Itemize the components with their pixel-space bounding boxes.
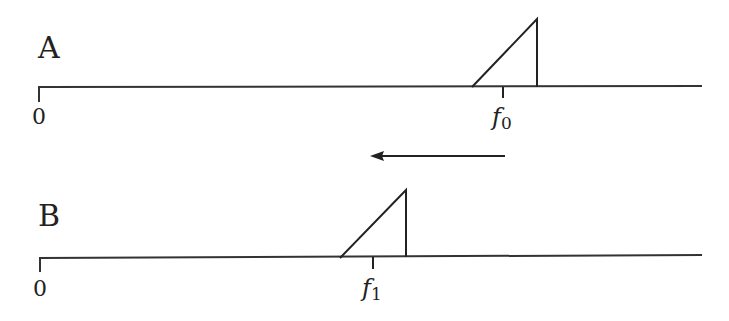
panel-b-f1-label: f1 bbox=[360, 274, 382, 304]
diagram-svg: A 0 f0 B 0 f1 bbox=[0, 0, 729, 321]
f1-subscript: 1 bbox=[371, 284, 382, 304]
panel-a-spectrum-triangle bbox=[472, 19, 537, 87]
panel-a: A 0 f0 bbox=[32, 19, 702, 133]
panel-b-label: B bbox=[38, 198, 60, 233]
panel-a-axis bbox=[39, 86, 702, 102]
panel-a-f0-label: f0 bbox=[490, 103, 512, 133]
spectrum-shift-diagram: A 0 f0 B 0 f1 bbox=[0, 0, 729, 321]
panel-b: B 0 f1 bbox=[33, 190, 702, 304]
panel-b-spectrum-triangle bbox=[340, 190, 406, 258]
shift-arrow bbox=[370, 151, 505, 161]
panel-b-origin-label: 0 bbox=[33, 276, 47, 301]
arrow-left-icon bbox=[370, 151, 384, 161]
panel-b-axis bbox=[40, 255, 702, 272]
f0-subscript: 0 bbox=[501, 113, 512, 133]
panel-a-origin-label: 0 bbox=[32, 104, 46, 129]
panel-a-label: A bbox=[37, 30, 60, 65]
